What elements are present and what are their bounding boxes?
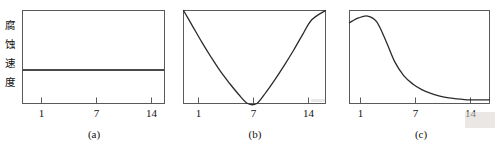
panel-c: 1 7 14 (c) <box>345 0 496 156</box>
plot-frame-b <box>184 11 326 104</box>
tick-label-a-1: 1 <box>39 107 45 119</box>
curve-c-corrosion-rate <box>350 16 490 100</box>
chart-c: 1 7 14 <box>345 0 496 128</box>
plot-frame-a <box>23 11 165 104</box>
tick-label-c-7: 7 <box>413 107 419 119</box>
print-smudge-c <box>465 112 495 128</box>
chart-a: 1 7 14 <box>18 0 170 128</box>
y-axis-label: 腐 蚀 速 度 <box>2 16 18 92</box>
tick-label-b-7: 7 <box>251 107 257 119</box>
chart-b: 1 7 14 <box>179 0 331 128</box>
tick-label-a-14: 14 <box>146 107 158 119</box>
plot-frame-c <box>350 11 490 104</box>
caption-c: (c) <box>345 128 496 140</box>
caption-b: (b) <box>179 128 331 140</box>
caption-a: (a) <box>18 128 170 140</box>
figure-corrosion-rate-vs-ph: 腐 蚀 速 度 1 7 14 (a) 1 7 14 <box>0 0 496 156</box>
panel-a: 1 7 14 (a) <box>18 0 170 156</box>
tick-label-c-1: 1 <box>358 107 364 119</box>
panel-b: 1 7 14 (b) <box>179 0 331 156</box>
curve-b-corrosion-rate <box>184 11 326 105</box>
print-smudge-b <box>311 99 325 102</box>
tick-label-b-1: 1 <box>196 107 202 119</box>
tick-label-b-14: 14 <box>303 107 315 119</box>
tick-label-a-7: 7 <box>94 107 100 119</box>
